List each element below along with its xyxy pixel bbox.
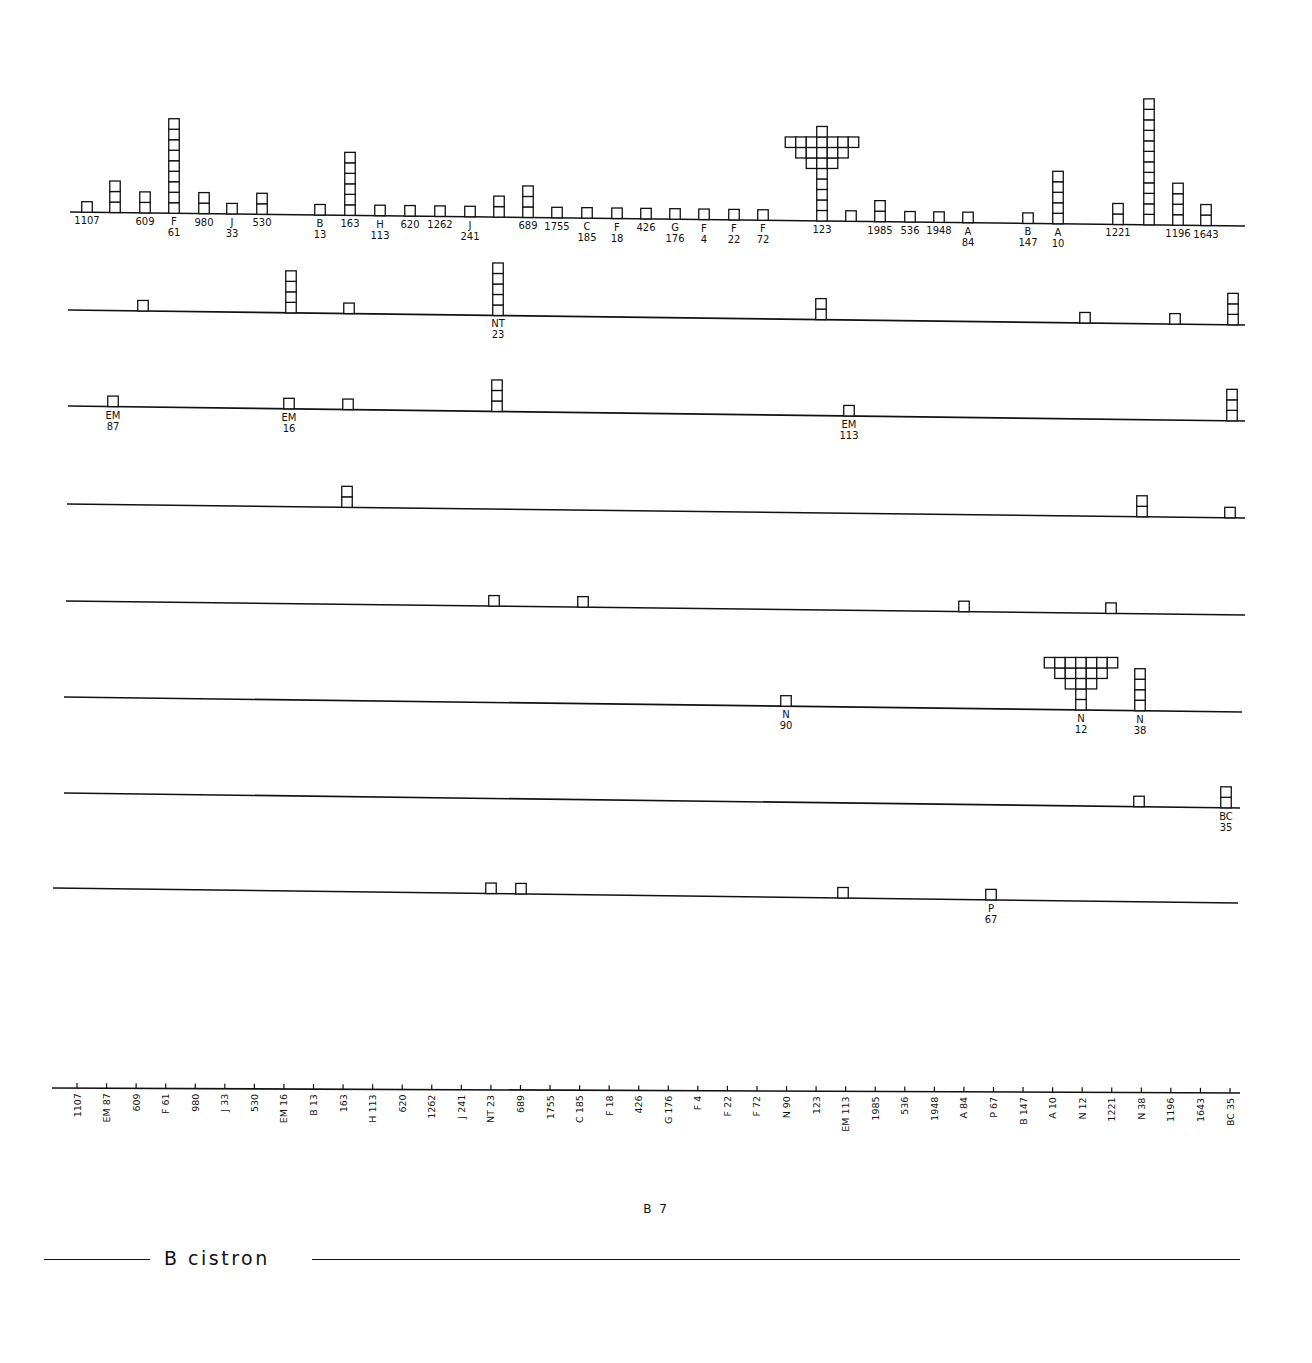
site-label: 12 (1075, 724, 1088, 735)
axis-line (52, 1088, 1240, 1093)
mutation-unit (140, 192, 151, 203)
mutation-unit (1144, 162, 1155, 173)
site-label: 185 (577, 232, 596, 243)
mutation-unit (1170, 314, 1181, 325)
mutation-unit (1144, 141, 1155, 152)
mutation-unit (1173, 215, 1184, 226)
mutation-unit (1135, 700, 1146, 711)
mutation-unit (1201, 215, 1212, 226)
site-stack: C185 (577, 208, 596, 244)
site-label: 536 (900, 225, 919, 236)
site-label: A (1055, 227, 1062, 238)
mutation-unit (110, 202, 121, 213)
mutation-unit (1225, 507, 1236, 518)
mutation-unit (817, 179, 828, 190)
mutation-unit (1144, 120, 1155, 131)
mutation-unit (827, 147, 838, 158)
mutation-unit (342, 486, 353, 497)
site-label: 113 (370, 230, 389, 241)
mutation-row: EM87EM16EM113 (68, 380, 1245, 441)
axis-site-label: 980 (190, 1094, 201, 1112)
mutation-rows: 1107609F61980J33530B13163H1136201262J241… (53, 99, 1245, 925)
cistron-text: B cistron (164, 1247, 270, 1269)
row-baseline (70, 212, 1245, 226)
mutation-unit (934, 212, 945, 223)
mutation-unit (345, 184, 356, 195)
site-stack: N90 (780, 696, 793, 732)
site-stack: G176 (665, 209, 684, 245)
mutation-unit (875, 201, 886, 212)
site-stack: BC35 (1219, 787, 1233, 833)
figure-title: B 7 (0, 1202, 1312, 1216)
site-label: EM (106, 410, 121, 421)
site-label: BC (1219, 811, 1233, 822)
site-stack: N12 (1044, 657, 1118, 735)
site-label: 84 (962, 237, 975, 248)
mutation-unit (489, 596, 500, 607)
row-baseline (64, 793, 1240, 808)
mutation-unit (758, 210, 769, 221)
mutation-unit (345, 163, 356, 174)
site-stack: 1262 (427, 206, 452, 231)
site-stack: 689 (518, 186, 537, 232)
site-label: 147 (1018, 237, 1037, 248)
site-stack: 609 (135, 192, 154, 227)
mutation-unit (1221, 787, 1232, 798)
axis-site-label: 1107 (72, 1093, 83, 1117)
mutation-unit (1201, 205, 1212, 216)
axis-site-label: F 22 (722, 1096, 733, 1117)
site-stack (486, 883, 497, 894)
mutation-unit (1086, 668, 1097, 679)
site-stack: 536 (900, 212, 919, 237)
site-label: 1262 (427, 219, 452, 230)
site-label: 1196 (1165, 228, 1190, 239)
mutation-unit (1144, 109, 1155, 120)
mutation-unit (552, 207, 563, 218)
mutation-unit (1065, 678, 1076, 689)
mutation-unit (523, 186, 534, 197)
mutation-unit (169, 171, 180, 182)
site-stack: F61 (168, 119, 181, 239)
mutation-unit (848, 137, 859, 148)
mutation-unit (796, 137, 807, 148)
axis-site-label: G 176 (663, 1096, 674, 1125)
site-stack: J33 (226, 203, 239, 239)
mutation-unit (817, 147, 828, 158)
axis-site-label: EM 113 (840, 1096, 851, 1131)
mutation-unit (108, 396, 119, 407)
site-label: 1948 (926, 225, 951, 236)
site-stack (1228, 293, 1239, 325)
site-stack (494, 196, 505, 217)
mutation-unit (796, 147, 807, 158)
site-stack: EM113 (839, 405, 858, 441)
mutation-unit (817, 168, 828, 179)
mutation-unit (1053, 171, 1064, 182)
axis-site-label: 163 (338, 1094, 349, 1112)
site-stack (1137, 496, 1148, 517)
mutation-unit (641, 208, 652, 219)
mutation-unit (817, 200, 828, 211)
mutation-unit (1086, 657, 1097, 668)
site-label: C (584, 221, 591, 232)
site-stack (1225, 507, 1236, 518)
site-stack: B147 (1018, 213, 1037, 249)
site-stack: 1948 (926, 212, 951, 237)
site-stack (1170, 314, 1181, 325)
mutation-unit (963, 212, 974, 223)
mutation-unit (286, 292, 297, 303)
site-label: 123 (812, 224, 831, 235)
mutation-unit (140, 202, 151, 213)
mutation-row (67, 486, 1245, 518)
mutation-unit (227, 203, 238, 214)
site-stack: 1107 (74, 202, 99, 227)
axis-site-label: 426 (633, 1095, 644, 1113)
axis-site-label: 620 (397, 1094, 408, 1112)
site-stack: F4 (699, 209, 710, 245)
site-stack (1106, 603, 1117, 614)
site-stack (816, 299, 827, 320)
mutation-unit (1097, 657, 1108, 668)
axis-site-label: J 33 (219, 1094, 230, 1113)
mutation-unit (169, 192, 180, 203)
axis-site-label: N 90 (781, 1096, 792, 1118)
site-label: 33 (226, 228, 239, 239)
